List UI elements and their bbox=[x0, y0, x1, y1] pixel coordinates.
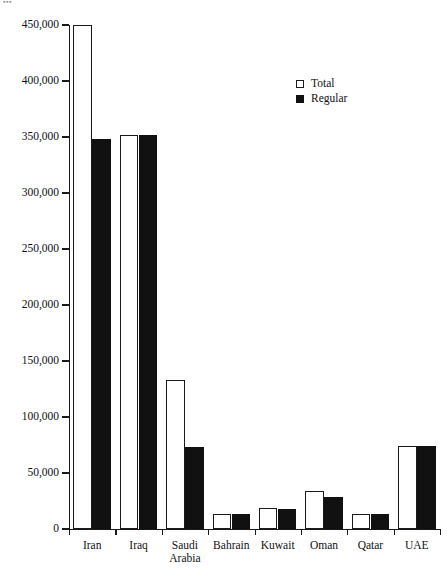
x-axis-tick bbox=[255, 529, 256, 535]
bar-group bbox=[166, 25, 204, 529]
bar-total bbox=[305, 491, 324, 529]
y-axis-tick bbox=[62, 528, 69, 529]
bar-group bbox=[398, 25, 436, 529]
y-axis-tick bbox=[62, 304, 69, 305]
bar-regular bbox=[417, 446, 436, 529]
bar-total bbox=[120, 135, 139, 529]
y-axis-tick-label: 100,000 bbox=[0, 411, 59, 422]
y-axis-tick bbox=[62, 472, 69, 473]
x-axis-tick bbox=[347, 529, 348, 535]
legend-label-total: Total bbox=[311, 76, 334, 91]
bar-group bbox=[73, 25, 111, 529]
open-square-icon bbox=[296, 80, 304, 88]
y-axis-tick bbox=[62, 192, 69, 193]
bar-regular bbox=[324, 497, 343, 529]
x-axis-tick bbox=[208, 529, 209, 535]
bar-total bbox=[398, 446, 417, 529]
bar-total bbox=[166, 380, 185, 529]
bar-total bbox=[73, 25, 92, 529]
bar-regular bbox=[232, 514, 251, 529]
y-axis-tick bbox=[62, 24, 69, 25]
y-axis-tick bbox=[62, 360, 69, 361]
x-axis-tick bbox=[115, 529, 116, 535]
legend-item-regular: Regular bbox=[296, 91, 347, 106]
legend-label-regular: Regular bbox=[311, 91, 347, 106]
y-axis-tick bbox=[62, 416, 69, 417]
x-axis-category-label: UAE bbox=[388, 539, 446, 552]
bar-group bbox=[213, 25, 251, 529]
y-axis-tick-label: 400,000 bbox=[0, 75, 59, 86]
y-axis-tick bbox=[62, 248, 69, 249]
bar-regular bbox=[185, 447, 204, 529]
y-axis-tick-label: 50,000 bbox=[0, 467, 59, 478]
x-axis-tick bbox=[440, 529, 441, 535]
legend-item-total: Total bbox=[296, 76, 347, 91]
bar-regular bbox=[92, 139, 111, 529]
bar-group bbox=[259, 25, 297, 529]
plot-area bbox=[69, 25, 440, 529]
y-axis-tick-label: 200,000 bbox=[0, 299, 59, 310]
y-axis-tick bbox=[62, 136, 69, 137]
bar-regular bbox=[371, 514, 390, 529]
bar-group bbox=[352, 25, 390, 529]
x-axis-tick bbox=[301, 529, 302, 535]
y-axis-tick-label: 150,000 bbox=[0, 355, 59, 366]
bar-total bbox=[213, 514, 232, 529]
y-axis-tick bbox=[62, 80, 69, 81]
y-axis-tick-label: 250,000 bbox=[0, 243, 59, 254]
x-axis-tick bbox=[162, 529, 163, 535]
x-axis-tick bbox=[394, 529, 395, 535]
bar-total bbox=[352, 514, 371, 529]
x-axis-tick bbox=[69, 529, 70, 535]
bar-chart: ▪▪▪ 450,000400,000350,000300,000250,0002… bbox=[0, 0, 448, 583]
bar-regular bbox=[278, 509, 297, 529]
chart-legend: Total Regular bbox=[296, 76, 347, 106]
bar-total bbox=[259, 508, 278, 529]
page-edge-artifact: ▪▪▪ bbox=[3, 0, 25, 5]
y-axis-tick-label: 350,000 bbox=[0, 131, 59, 142]
bar-group bbox=[120, 25, 158, 529]
bar-regular bbox=[139, 135, 158, 529]
filled-square-icon bbox=[296, 95, 304, 103]
y-axis-tick-label: 0 bbox=[0, 523, 59, 534]
y-axis-tick-label: 300,000 bbox=[0, 187, 59, 198]
y-axis-tick-label: 450,000 bbox=[0, 19, 59, 30]
